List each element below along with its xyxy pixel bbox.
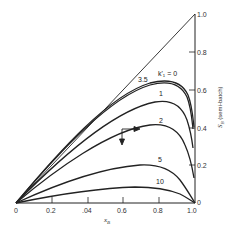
y-tick-08: 0.8 [197,49,207,56]
y-tick-06: 0.6 [197,87,207,94]
x-tick-0: 0 [14,207,18,214]
y-tick-04: 0.4 [197,125,207,132]
arrow-annotation [120,127,141,146]
x-tick-02: 0.2 [46,207,56,214]
curve-label-10: 10 [156,178,164,185]
x-tick-06: 0.6 [117,207,127,214]
curve-label-5: 5 [158,156,162,163]
x-tick-08: 0.8 [153,207,163,214]
y-axis-label: SB (semi-batch) [216,86,225,128]
chart: 0 0.2 .04 0.6 0.8 1.0 xB 1.0 0.8 0.6 0.4… [0,0,230,229]
curve-label-3-5: 3.5 [138,76,148,83]
x-tick-10: 1.0 [187,207,197,214]
y-tick-0: 0 [197,199,201,206]
curve-label-1: 1 [159,90,163,97]
x-axis-label: xB [103,216,110,225]
x-ticks [52,197,159,203]
y-tick-10: 1.0 [197,11,207,18]
curve-1 [16,101,193,203]
curve-label-2: 2 [159,117,163,124]
x-tick-04: .04 [82,207,92,214]
curve-k0 [16,81,194,203]
curve-label-k0: k'₁ = 0 [158,70,177,77]
y-tick-02: 0.2 [197,162,207,169]
curve-10 [16,187,195,203]
